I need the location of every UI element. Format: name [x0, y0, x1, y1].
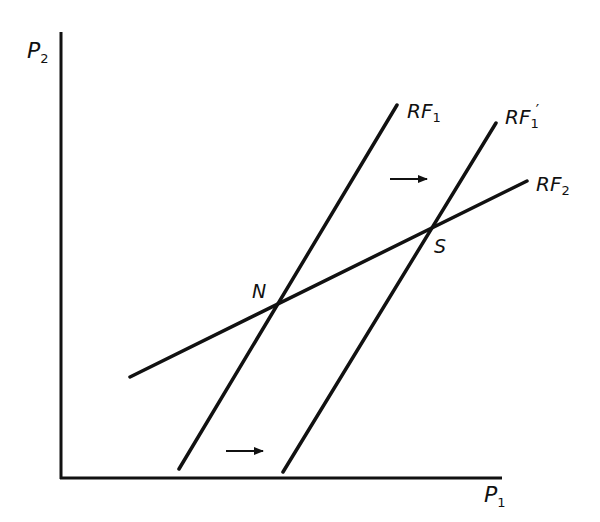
rf1-label: RF1 — [407, 99, 441, 125]
x-axis-label: P1 — [484, 482, 506, 510]
point-s-label: S — [434, 235, 446, 257]
reaction-function-diagram: P2 P1 RF1 RF1′ RF2 N S — [0, 0, 600, 522]
line-rf2 — [130, 181, 527, 377]
reaction-function-lines — [130, 105, 527, 472]
y-axis-label: P2 — [27, 38, 49, 66]
line-rf1prime — [283, 123, 496, 472]
rf1-prime-label: RF1′ — [505, 102, 540, 131]
line-rf1 — [179, 105, 397, 469]
rf2-label: RF2 — [536, 172, 570, 198]
point-n-label: N — [252, 280, 266, 302]
